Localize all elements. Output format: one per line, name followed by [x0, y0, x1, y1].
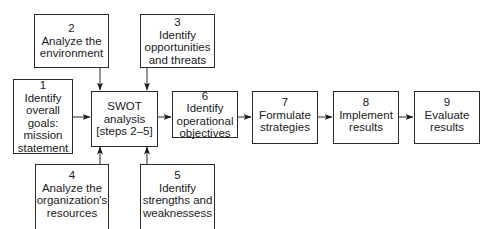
node-number: 5 — [174, 169, 180, 182]
node-label-line: Evaluate — [425, 109, 470, 122]
node-label-line: goals: — [28, 117, 59, 130]
node-swot-analysis: SWOT analysis [steps 2–5] — [91, 91, 158, 147]
node-label-line: results — [430, 121, 464, 134]
node-label-line: Analyze the — [41, 35, 101, 48]
node-label-line: weaknessess — [143, 207, 212, 220]
node-number: 2 — [68, 22, 74, 35]
node-label-line: Identify — [159, 29, 196, 42]
node-label-line: statement — [18, 142, 69, 155]
node-8-implement-results: 8 Implement results — [333, 91, 399, 144]
node-label-line: analysis — [104, 113, 146, 126]
node-4-analyze-resources: 4 Analyze the organization's resources — [35, 164, 109, 229]
node-number: 4 — [69, 169, 75, 182]
node-label-line: strengths and — [143, 194, 213, 207]
node-number: 3 — [174, 16, 180, 29]
node-label-line: objectives — [179, 127, 230, 140]
node-label-line: Identify — [186, 102, 223, 115]
node-6-operational-objectives: 6 Identify operational objectives — [172, 91, 238, 138]
node-label-line: opportunities — [145, 41, 211, 54]
node-label-line: operational — [177, 115, 234, 128]
node-number: 8 — [363, 96, 369, 109]
node-label-line: Analyze the — [42, 182, 102, 195]
node-3-opportunities-threats: 3 Identify opportunities and threats — [140, 14, 215, 68]
node-label-line: strategies — [260, 121, 310, 134]
node-number: 6 — [202, 90, 208, 103]
node-label-line: resources — [47, 207, 98, 220]
node-7-formulate-strategies: 7 Formulate strategies — [252, 91, 318, 144]
node-label-line: mission — [24, 129, 63, 142]
node-label-line: Identify — [159, 182, 196, 195]
node-label-line: overall — [26, 104, 60, 117]
node-number: 7 — [282, 96, 288, 109]
node-label-line: and threats — [149, 54, 207, 67]
node-number: 1 — [40, 79, 46, 92]
node-5-strengths-weaknesses: 5 Identify strengths and weaknessess — [140, 164, 215, 229]
node-label-line: organization's — [37, 194, 108, 207]
node-label-line: [steps 2–5] — [96, 125, 152, 138]
node-label-line: environment — [40, 47, 103, 60]
node-number: 9 — [444, 96, 450, 109]
node-label-line: Formulate — [259, 109, 311, 122]
node-2-analyze-environment: 2 Analyze the environment — [34, 14, 109, 68]
node-1-identify-goals: 1 Identify overall goals: mission statem… — [13, 79, 73, 154]
node-9-evaluate-results: 9 Evaluate results — [414, 91, 480, 144]
node-label-line: results — [349, 121, 383, 134]
node-label-line: SWOT — [107, 100, 142, 113]
node-label-line: Identify — [24, 92, 61, 105]
node-label-line: Implement — [339, 109, 393, 122]
